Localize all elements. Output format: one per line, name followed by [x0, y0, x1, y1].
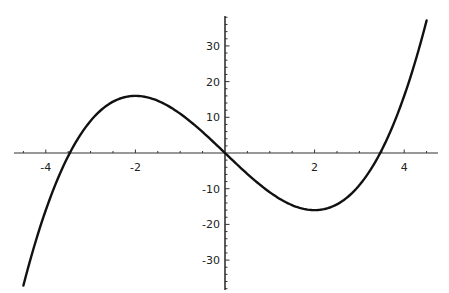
x-tick-label: -4: [40, 161, 51, 174]
function-plot: -4-224-30-20-10102030: [0, 0, 449, 293]
x-tick-label: 4: [401, 161, 408, 174]
x-tick-label: 2: [311, 161, 318, 174]
y-tick-label: 10: [206, 111, 220, 124]
y-tick-label: -30: [202, 254, 220, 267]
y-tick-label: -10: [202, 183, 220, 196]
y-tick-label: 20: [206, 76, 220, 89]
x-tick-label: -2: [130, 161, 141, 174]
y-tick-label: -20: [202, 218, 220, 231]
y-tick-label: 30: [206, 40, 220, 53]
